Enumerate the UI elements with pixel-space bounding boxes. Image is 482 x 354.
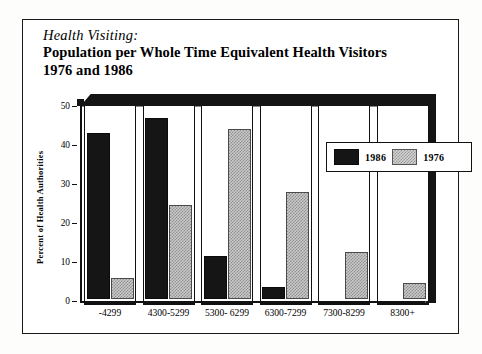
figure-page: Health Visiting: Population per Whole Ti… bbox=[0, 0, 482, 354]
group-panel bbox=[377, 106, 429, 301]
group-panel-shadow bbox=[253, 99, 260, 106]
y-tick-label: 40 bbox=[61, 140, 70, 150]
bar-group bbox=[201, 94, 253, 303]
y-tick-mark bbox=[72, 145, 77, 146]
bar-1976--4299[interactable] bbox=[111, 278, 134, 299]
bar-1986-5300- 6299[interactable] bbox=[204, 256, 227, 299]
group-base-line bbox=[260, 303, 312, 305]
plot-area: Percent of Health Authorities 0102030405… bbox=[39, 94, 451, 324]
bar-1976-8300+[interactable] bbox=[403, 283, 426, 299]
bar-1976-4300-5299[interactable] bbox=[169, 205, 192, 299]
y-tick-label: 30 bbox=[61, 179, 70, 189]
y-tick-label: 10 bbox=[61, 257, 70, 267]
figure-frame: Health Visiting: Population per Whole Ti… bbox=[22, 19, 459, 334]
group-bars bbox=[262, 118, 309, 299]
y-tick-mark bbox=[72, 223, 77, 224]
solid-black-swatch bbox=[334, 149, 359, 165]
y-axis-ticks: 01020304050 bbox=[51, 94, 77, 303]
group-panel bbox=[260, 106, 312, 301]
group-bars bbox=[204, 118, 251, 299]
group-panel bbox=[318, 106, 370, 301]
x-tick-label: 8300+ bbox=[390, 307, 415, 318]
group-base-line bbox=[84, 303, 136, 305]
group-panel bbox=[201, 106, 253, 301]
bar-1976-7300-8299[interactable] bbox=[345, 252, 368, 299]
bar-1976-6300-7299[interactable] bbox=[286, 192, 309, 299]
y-tick-mark bbox=[72, 106, 77, 107]
bar-1976-5300- 6299[interactable] bbox=[228, 129, 251, 299]
y-tick-label: 50 bbox=[61, 101, 70, 111]
bar-groups bbox=[80, 94, 436, 303]
group-base-line bbox=[377, 303, 429, 305]
bar-1986-6300-7299[interactable] bbox=[262, 287, 285, 299]
group-panel-shadow bbox=[136, 99, 143, 106]
group-panel bbox=[84, 106, 136, 301]
y-tick-mark bbox=[72, 262, 77, 263]
y-axis-title: Percent of Health Authorities bbox=[35, 122, 49, 292]
x-axis-labels: -42994300-52995300- 62996300-72997300-82… bbox=[80, 307, 436, 325]
bar-group bbox=[143, 94, 195, 303]
chart-title-line2: 1976 and 1986 bbox=[43, 62, 443, 80]
x-tick-label: 5300- 6299 bbox=[205, 307, 249, 318]
dotted-grey-swatch bbox=[392, 149, 417, 165]
group-base-line bbox=[201, 303, 253, 305]
title-block: Health Visiting: Population per Whole Ti… bbox=[43, 27, 443, 79]
group-base-line bbox=[143, 303, 195, 305]
x-tick-label: 6300-7299 bbox=[265, 307, 307, 318]
legend-item-1976[interactable]: 1976 bbox=[392, 149, 444, 165]
bar-1986--4299[interactable] bbox=[87, 133, 110, 299]
x-tick-label: 4300-5299 bbox=[148, 307, 190, 318]
bar-1986-4300-5299[interactable] bbox=[145, 118, 168, 299]
y-tick-mark bbox=[72, 301, 77, 302]
group-panel-shadow bbox=[311, 99, 318, 106]
group-panel-shadow bbox=[370, 99, 377, 106]
chart-legend: 19861976 bbox=[326, 142, 472, 172]
group-bars bbox=[145, 118, 192, 299]
chart-subtitle: Health Visiting: bbox=[43, 27, 443, 44]
bar-group bbox=[260, 94, 312, 303]
y-tick-label: 20 bbox=[61, 218, 70, 228]
legend-item-1986[interactable]: 1986 bbox=[334, 149, 386, 165]
bar-group bbox=[84, 94, 136, 303]
x-tick-label: -4299 bbox=[99, 307, 121, 318]
group-bars bbox=[87, 118, 134, 299]
bar-group bbox=[377, 94, 429, 303]
chart-title-line1: Population per Whole Time Equivalent Hea… bbox=[43, 44, 443, 62]
group-base-line bbox=[318, 303, 370, 305]
y-tick-label: 0 bbox=[65, 296, 70, 306]
y-tick-mark bbox=[72, 184, 77, 185]
legend-label: 1986 bbox=[365, 152, 386, 163]
group-panel bbox=[143, 106, 195, 301]
bar-group bbox=[318, 94, 370, 303]
x-tick-label: 7300-8299 bbox=[323, 307, 365, 318]
group-panel-shadow bbox=[77, 99, 84, 106]
legend-label: 1976 bbox=[423, 152, 444, 163]
group-panel-shadow bbox=[194, 99, 201, 106]
